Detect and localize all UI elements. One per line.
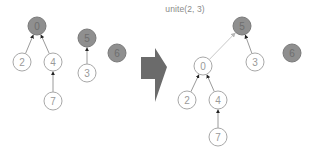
after-node-4: 4: [209, 91, 227, 109]
before-node-0: 0: [28, 17, 46, 35]
operation-label: unite(2, 3): [150, 4, 220, 14]
after-node-3: 3: [246, 53, 264, 71]
before-node-2: 2: [13, 53, 31, 71]
before-node-4: 4: [44, 53, 62, 71]
node-label: 3: [252, 57, 258, 68]
before-edge-4-to-0: [41, 35, 49, 54]
forest-before: 0247536: [13, 17, 126, 110]
node-label: 2: [184, 95, 190, 106]
node-label: 4: [215, 95, 221, 106]
after-edge-0-to-5: [209, 33, 235, 60]
after-node-0: 0: [194, 57, 212, 75]
node-label: 7: [215, 132, 221, 143]
forest-after: 5032476: [178, 17, 301, 146]
node-label: 6: [114, 48, 120, 59]
node-label: 3: [84, 68, 90, 79]
transition-arrow-icon: [141, 48, 167, 102]
node-label: 2: [19, 57, 25, 68]
node-label: 0: [34, 21, 40, 32]
after-node-7: 7: [209, 128, 227, 146]
node-label: 0: [200, 61, 206, 72]
diagram-canvas: 0247536 5032476: [0, 0, 312, 162]
node-label: 5: [239, 21, 245, 32]
before-node-5: 5: [78, 29, 96, 47]
before-node-6: 6: [108, 44, 126, 62]
before-edge-2-to-0: [25, 35, 33, 54]
before-node-7: 7: [44, 92, 62, 110]
after-edge-2-to-0: [191, 75, 199, 92]
after-edge-4-to-0: [207, 75, 215, 92]
after-node-6: 6: [283, 44, 301, 62]
after-edge-3-to-5: [245, 35, 252, 54]
before-node-3: 3: [78, 64, 96, 82]
node-label: 6: [289, 48, 295, 59]
node-label: 7: [50, 96, 56, 107]
after-node-5: 5: [233, 17, 251, 35]
union-find-diagram: unite(2, 3) 0247536 5032476: [0, 0, 312, 162]
after-node-2: 2: [178, 91, 196, 109]
node-label: 4: [50, 57, 56, 68]
node-label: 5: [84, 33, 90, 44]
